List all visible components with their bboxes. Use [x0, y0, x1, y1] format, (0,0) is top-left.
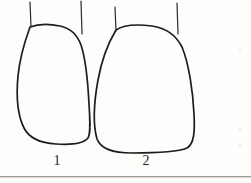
root-line-right-2 [177, 3, 178, 34]
root-line-left-1 [30, 2, 31, 27]
scan-speck [90, 110, 91, 111]
specimen-group-2 [94, 3, 194, 153]
figure-page: 1 2 [0, 0, 251, 183]
scan-speck [97, 32, 98, 33]
page-divider-rule-shadow [0, 177, 251, 178]
scan-speck [239, 49, 241, 51]
scan-speck [137, 96, 138, 97]
root-line-left-2 [115, 7, 116, 31]
scan-speck [129, 144, 130, 145]
specimen-group-1 [17, 1, 90, 144]
scan-speck [90, 127, 91, 128]
scan-speck [239, 144, 241, 146]
scan-speck [125, 110, 126, 111]
tooth-outline-left [17, 25, 90, 145]
root-line-right-1 [81, 1, 82, 34]
scan-speck [193, 31, 194, 32]
scan-speck [238, 110, 239, 111]
specimen-label-1: 1 [50, 154, 64, 168]
specimen-label-2: 2 [139, 154, 153, 168]
scan-speck [239, 128, 241, 130]
figure-drawing-canvas [0, 0, 251, 183]
tooth-outline-right [94, 25, 194, 153]
scan-speck [212, 144, 213, 145]
scan-speck [216, 49, 217, 50]
